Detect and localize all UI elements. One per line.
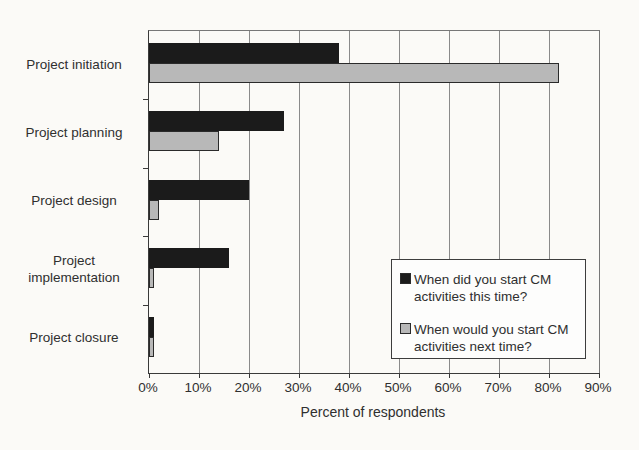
bar-next-time bbox=[149, 131, 219, 151]
bar-this-time bbox=[149, 111, 284, 131]
x-axis-tick bbox=[599, 373, 600, 378]
bar-chart-figure: When did you start CM activities this ti… bbox=[0, 0, 639, 450]
legend-item: When would you start CM activities next … bbox=[400, 321, 580, 355]
x-axis-tick bbox=[499, 373, 500, 378]
legend-swatch-next-time bbox=[400, 323, 411, 334]
legend-item-label: When did you start CM activities this ti… bbox=[414, 271, 580, 305]
x-axis-tick bbox=[399, 373, 400, 378]
x-tick-label: 60% bbox=[434, 380, 461, 395]
bar-this-time bbox=[149, 180, 249, 200]
x-axis-tick bbox=[349, 373, 350, 378]
x-axis-tick bbox=[149, 373, 150, 378]
x-tick-label: 40% bbox=[334, 380, 361, 395]
bar-next-time bbox=[149, 200, 159, 220]
x-axis-tick bbox=[299, 373, 300, 378]
x-tick-label: 30% bbox=[284, 380, 311, 395]
plot-area: When did you start CM activities this ti… bbox=[148, 30, 600, 374]
legend-item: When did you start CM activities this ti… bbox=[400, 271, 580, 305]
category-label: Project planning bbox=[6, 98, 142, 166]
y-axis-tick bbox=[143, 236, 148, 237]
bar-this-time bbox=[149, 248, 229, 268]
bar-next-time bbox=[149, 63, 559, 83]
x-tick-label: 90% bbox=[584, 380, 611, 395]
x-tick-label: 10% bbox=[184, 380, 211, 395]
x-tick-label: 50% bbox=[384, 380, 411, 395]
legend-swatch-this-time bbox=[400, 273, 411, 284]
bar-this-time bbox=[149, 43, 339, 63]
x-tick-label: 0% bbox=[138, 380, 158, 395]
x-tick-label: 80% bbox=[534, 380, 561, 395]
y-axis-tick bbox=[143, 305, 148, 306]
x-tick-label: 70% bbox=[484, 380, 511, 395]
category-label: Project design bbox=[6, 167, 142, 235]
x-axis-tick bbox=[449, 373, 450, 378]
legend: When did you start CM activities this ti… bbox=[391, 259, 586, 359]
y-axis-tick bbox=[143, 99, 148, 100]
y-axis-tick bbox=[143, 168, 148, 169]
legend-item-label: When would you start CM activities next … bbox=[414, 321, 580, 355]
x-tick-label: 20% bbox=[234, 380, 261, 395]
bar-next-time bbox=[149, 268, 154, 288]
category-label: Project implementation bbox=[6, 235, 142, 303]
category-axis: Project initiationProject planningProjec… bbox=[6, 30, 142, 372]
x-axis-tick bbox=[549, 373, 550, 378]
category-label: Project closure bbox=[6, 304, 142, 372]
category-label: Project initiation bbox=[6, 30, 142, 98]
x-axis-tick bbox=[249, 373, 250, 378]
bar-next-time bbox=[149, 337, 154, 357]
x-axis-tick bbox=[199, 373, 200, 378]
x-axis-label: Percent of respondents bbox=[148, 404, 598, 420]
bar-this-time bbox=[149, 317, 154, 337]
